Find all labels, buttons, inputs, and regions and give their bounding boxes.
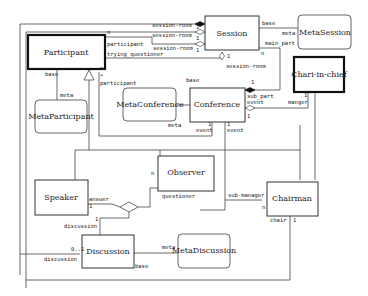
role-label: meta	[168, 122, 181, 128]
role-label: main_part	[265, 40, 295, 47]
role-label: meta	[162, 244, 175, 250]
role-label: meta	[60, 92, 73, 98]
multiplicity-label: 1	[89, 203, 92, 209]
aggregation-diamond	[245, 106, 255, 111]
role-label: participant	[107, 41, 143, 48]
composition-diamond	[245, 88, 255, 93]
role-label: chair	[270, 217, 287, 223]
class-chairman-label: Chairman	[272, 194, 312, 203]
assoc-answer	[88, 204, 120, 207]
multiplicity-label: 1	[227, 53, 230, 59]
role-label: meta	[282, 30, 295, 36]
multiplicity-label: *	[100, 73, 103, 79]
class-discussion-label: Discussion	[86, 247, 129, 256]
multiplicity-label: n	[151, 170, 154, 176]
multiplicity-label: 1	[247, 113, 250, 119]
role-label: session-room	[152, 22, 192, 28]
multiplicity-label: 1	[196, 47, 199, 53]
class-conference-label: Conference	[194, 100, 241, 109]
multiplicity-label: 1	[196, 24, 199, 30]
multiplicity-label: n	[100, 65, 103, 71]
multiplicity-label: 1	[95, 216, 98, 222]
class-metadiscussion-label: MetaDiscussion	[172, 246, 236, 255]
role-label: base	[186, 77, 199, 83]
generalization-triangle	[84, 70, 94, 80]
role-label: discussion	[64, 223, 97, 229]
role-label: event	[196, 127, 213, 133]
multiplicity-label: 1	[196, 35, 199, 41]
aggregation-diamond	[220, 52, 225, 60]
assoc-questioner	[138, 188, 158, 207]
class-participant-label: Participant	[44, 48, 89, 57]
role-label: event	[247, 99, 264, 105]
class-chari-in-chief-label: Chari-in-chief	[291, 70, 347, 79]
role-label: event	[227, 127, 244, 133]
role-label: sub-manager	[228, 192, 265, 199]
multiplicity-label: 1	[293, 217, 296, 223]
role-label: manger	[288, 99, 309, 106]
multiplicity-label: 1	[251, 79, 254, 85]
class-speaker-label: Speaker	[44, 193, 78, 202]
class-metaconference-label: MetaConference	[116, 100, 184, 109]
role-label: base	[262, 20, 275, 26]
role-label: trying_questioner	[107, 51, 164, 58]
role-label: session-room	[152, 32, 192, 38]
assoc-discussion	[100, 212, 129, 235]
role-label: discussion	[44, 256, 77, 262]
role-label: base	[135, 263, 148, 269]
multiplicity-label: 0..1	[71, 246, 84, 252]
multiplicity-label: n	[262, 204, 265, 210]
aggregation-diamond	[195, 42, 205, 47]
class-observer-label: Observer	[167, 168, 205, 177]
multiplicity-label: 1	[304, 92, 307, 98]
multiplicity-label: n	[261, 50, 264, 56]
role-label: base	[45, 71, 58, 77]
aggregation-diamond	[195, 30, 205, 35]
class-metasession-label: MetaSession	[299, 28, 351, 37]
class-session-label: Session	[217, 29, 248, 38]
role-label: questioner	[162, 193, 196, 200]
ternary-association-diamond	[120, 202, 138, 212]
role-label: participant	[100, 80, 136, 87]
multiplicity-label: n	[107, 29, 110, 35]
generalization-bus	[89, 125, 300, 150]
class-metaparticipant-label: MetaParticipant	[28, 112, 94, 121]
uml-class-diagram: Participant Session MetaSession Chari-in…	[0, 0, 368, 296]
role-label: answer	[89, 196, 110, 202]
role-label: session-room	[226, 63, 266, 69]
